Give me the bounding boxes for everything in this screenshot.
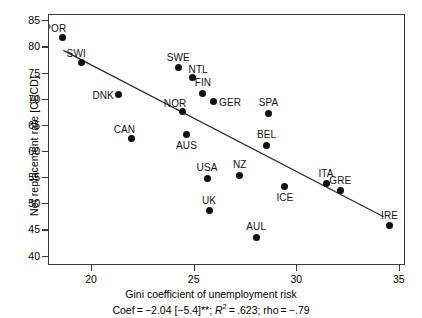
data-point-label: UK (202, 195, 216, 206)
rho-value: rho = −.79 (263, 304, 309, 316)
data-point[interactable] (210, 98, 217, 105)
plot-area: PORSWIDNKCANSWENTLNORFINGERAUSUSAUKNZAUL… (48, 14, 405, 265)
data-point[interactable] (265, 110, 272, 117)
data-point-label: CAN (114, 124, 135, 135)
r-squared-value: = .623; (227, 304, 264, 316)
data-point-label: NOR (164, 98, 187, 109)
data-point-label: NZ (233, 159, 247, 170)
data-point[interactable] (206, 207, 213, 214)
data-point-label: USA (197, 162, 218, 173)
x-tick-label: 25 (174, 273, 214, 285)
data-point[interactable] (204, 175, 211, 182)
x-axis-title: Gini coefficient of unemployment risk (0, 288, 422, 300)
y-tick-label: 55 (0, 171, 40, 183)
data-point-label: NTL (189, 64, 208, 75)
x-tick-mark (91, 265, 92, 271)
scatter-plot-figure: Net replacement rate [OECD] 404550556065… (0, 0, 422, 318)
x-tick-label: 30 (276, 273, 316, 285)
coef-text: Coef = −2.04 [−5.4]**; (112, 304, 215, 316)
x-tick-mark (296, 265, 297, 271)
data-point-label: SWE (167, 52, 190, 63)
data-point[interactable] (59, 34, 66, 41)
regression-line (49, 15, 404, 264)
x-tick-mark (194, 265, 195, 271)
y-tick-label: 60 (0, 145, 40, 157)
data-point-label: GER (219, 96, 241, 107)
regression-statistics: Coef = −2.04 [−5.4]**; R2 = .623; rho = … (0, 302, 422, 316)
data-point-label: IRE (381, 210, 398, 221)
y-tick-label: 70 (0, 93, 40, 105)
data-point-label: POR (49, 23, 66, 34)
plot-inner: PORSWIDNKCANSWENTLNORFINGERAUSUSAUKNZAUL… (49, 15, 404, 264)
data-point[interactable] (78, 59, 85, 66)
data-point[interactable] (253, 234, 260, 241)
data-point[interactable] (236, 172, 243, 179)
data-point-label: SWI (67, 48, 86, 59)
y-tick-label: 65 (0, 119, 40, 131)
x-tick-label: 35 (379, 273, 419, 285)
r-squared-symbol: R (215, 304, 223, 316)
y-tick-label: 40 (0, 250, 40, 262)
data-point[interactable] (263, 142, 270, 149)
y-tick-label: 45 (0, 223, 40, 235)
data-point-label: AUL (246, 221, 266, 232)
data-point-label: SPA (259, 97, 279, 108)
data-point-label: GRE (329, 175, 351, 186)
x-tick-label: 20 (71, 273, 111, 285)
data-point[interactable] (337, 187, 344, 194)
y-tick-label: 75 (0, 67, 40, 79)
x-tick-mark (399, 265, 400, 271)
data-point-label: AUS (176, 140, 197, 151)
data-point-label: BEL (257, 129, 276, 140)
data-point-label: FIN (195, 77, 211, 88)
data-point-label: ICE (276, 192, 293, 203)
data-point[interactable] (128, 135, 135, 142)
y-tick-label: 85 (0, 14, 40, 26)
y-tick-label: 50 (0, 197, 40, 209)
y-tick-label: 80 (0, 40, 40, 52)
data-point-label: DNK (92, 89, 113, 100)
